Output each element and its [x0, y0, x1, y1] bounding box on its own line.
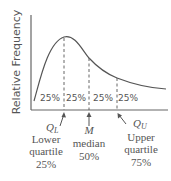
- segment-label-4: 25%: [118, 93, 138, 103]
- upper-quartile-name-line1: Upper: [127, 131, 155, 143]
- upper-quartile-symbol: QU: [133, 117, 148, 131]
- lower-quartile-arrow: [60, 112, 66, 126]
- upper-quartile-arrow: [118, 113, 127, 124]
- y-axis-label: Relative Frequency: [10, 9, 23, 114]
- segment-label-1: 25%: [40, 93, 60, 103]
- median-symbol: M: [83, 124, 94, 136]
- distribution-curve: [34, 37, 166, 101]
- median-percent: 50%: [79, 150, 99, 162]
- segment-label-2: 25%: [66, 93, 86, 103]
- upper-quartile-name-line2: quartile: [124, 143, 158, 155]
- segment-label-3: 25%: [93, 93, 113, 103]
- median-name: median: [73, 137, 106, 149]
- upper-quartile-percent: 75%: [131, 156, 151, 168]
- lower-quartile-percent: 25%: [36, 158, 56, 170]
- skewed-distribution-diagram: Relative Frequency 25% 25% 25% 25%: [0, 0, 171, 181]
- lower-quartile-name-line2: quartile: [29, 145, 63, 157]
- lower-quartile-name-line1: Lower: [32, 133, 61, 145]
